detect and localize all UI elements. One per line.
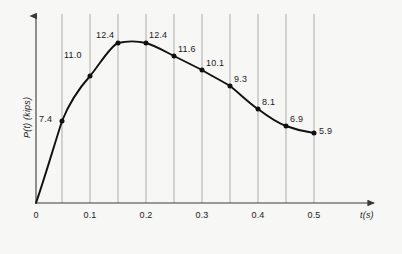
data-point-marker	[284, 124, 289, 129]
data-point-marker	[88, 74, 93, 79]
data-point-label-11.6: 11.6	[178, 44, 196, 54]
data-point-label-5.9: 5.9	[319, 126, 332, 136]
x-axis-title: t(s)	[360, 210, 374, 220]
chart-figure: P(t) (kips) t(s) 0 0.1 0.2 0.3 0.4 0.5 7…	[0, 0, 402, 254]
x-tick-label-0.5: 0.5	[307, 210, 320, 220]
data-point-marker	[200, 68, 205, 73]
axes	[36, 16, 374, 203]
data-point-label-7.4: 7.4	[39, 114, 52, 124]
data-point-label-12.4-b: 12.4	[149, 30, 167, 40]
data-point-marker	[144, 41, 149, 46]
data-point-marker	[256, 107, 261, 112]
x-tick-label-0.1: 0.1	[83, 210, 96, 220]
data-curve	[36, 42, 314, 204]
x-tick-label-0: 0	[33, 210, 38, 220]
data-point-label-8.1: 8.1	[262, 97, 275, 107]
data-point-label-11.0: 11.0	[64, 50, 82, 60]
gridlines	[62, 14, 314, 203]
data-point-label-10.1: 10.1	[206, 58, 224, 68]
data-point-marker	[228, 84, 233, 89]
x-tick-label-0.2: 0.2	[139, 210, 152, 220]
data-point-label-9.3: 9.3	[234, 74, 247, 84]
y-axis-title: P(t) (kips)	[22, 97, 32, 138]
data-point-marker	[60, 119, 65, 124]
data-point-label-6.9: 6.9	[290, 114, 303, 124]
x-tick-label-0.4: 0.4	[251, 210, 264, 220]
data-point-marker	[312, 131, 317, 136]
x-tick-label-0.3: 0.3	[195, 210, 208, 220]
data-point-label-12.4-a: 12.4	[96, 30, 114, 40]
data-point-marker	[172, 54, 177, 59]
data-point-marker	[116, 41, 121, 46]
